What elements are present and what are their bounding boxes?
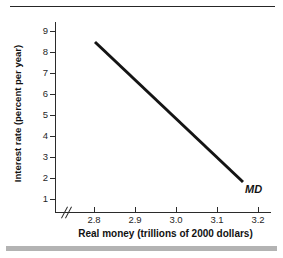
chart-figure: 9 8 7 6 5 4 3 2 1	[0, 0, 283, 258]
y-axis-title: Interest rate (percent per year)	[12, 19, 23, 209]
money-demand-line	[0, 0, 283, 258]
plot-area: 9 8 7 6 5 4 3 2 1	[0, 0, 283, 258]
series-label-md: MD	[245, 183, 263, 195]
bottom-divider-band	[6, 246, 277, 251]
x-axis-title: Real money (trillions of 2000 dollars)	[55, 228, 276, 240]
